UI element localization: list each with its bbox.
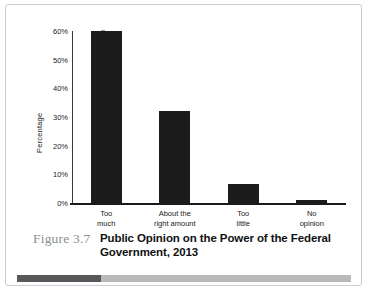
y-axis-tick-label: 30% xyxy=(38,113,68,122)
y-axis-tick-label: 0% xyxy=(38,199,68,208)
figure-caption: Figure 3.7 Public Opinion on the Power o… xyxy=(6,229,361,273)
x-axis-line xyxy=(70,203,346,205)
caption-rule-accent xyxy=(17,275,101,282)
caption-rule xyxy=(17,275,351,282)
x-axis-tick-label-line: Too xyxy=(77,209,136,219)
x-axis-tick-label-line: opinion xyxy=(282,219,341,229)
bar xyxy=(91,31,122,203)
figure-frame: Percentage 0%10%20%30%40%50%60% ToomuchA… xyxy=(5,4,362,286)
x-axis-tick-label-line: right amount xyxy=(145,219,204,229)
y-axis-tick-label: 20% xyxy=(38,141,68,150)
bar-group: Toomuch xyxy=(91,31,122,203)
bar-group: Toolittle xyxy=(228,31,259,203)
bar xyxy=(159,111,190,203)
figure-title-line-1: Public Opinion on the Power of the xyxy=(100,232,288,244)
figure-number: Figure 3.7 xyxy=(33,231,91,247)
y-axis-tick-label: 40% xyxy=(38,84,68,93)
x-axis-tick-label-line: little xyxy=(214,219,273,229)
bar-group: About theright amount xyxy=(159,31,190,203)
x-axis-tick-label-line: About the xyxy=(145,209,204,219)
y-axis-tick-label: 60% xyxy=(38,27,68,36)
x-axis-tick-label-line: Too xyxy=(214,209,273,219)
x-axis-tick-label: Toolittle xyxy=(214,209,273,228)
x-axis-tick-label: Toomuch xyxy=(77,209,136,228)
x-axis-tick-label-line: much xyxy=(77,219,136,229)
figure-title: Public Opinion on the Power of the Feder… xyxy=(100,231,350,259)
bar-series: ToomuchAbout theright amountToolittleNoo… xyxy=(72,31,346,203)
x-axis-tick-label: About theright amount xyxy=(145,209,204,228)
x-axis-tick-label: Noopinion xyxy=(282,209,341,228)
bar xyxy=(296,200,327,203)
y-axis-tick-label: 10% xyxy=(38,170,68,179)
bar xyxy=(228,184,259,203)
x-axis-tick-label-line: No xyxy=(282,209,341,219)
y-axis-tick-label: 50% xyxy=(38,55,68,64)
chart-plot-area: Percentage 0%10%20%30%40%50%60% ToomuchA… xyxy=(6,5,361,227)
bar-group: Noopinion xyxy=(296,31,327,203)
y-axis-ticks: 0%10%20%30%40%50%60% xyxy=(38,29,68,204)
